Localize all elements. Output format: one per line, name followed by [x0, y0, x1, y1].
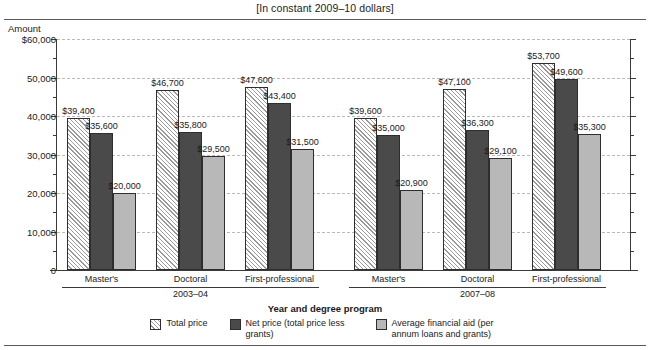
x-axis-category-label: First-professional — [245, 274, 314, 284]
y-axis-minor-tick — [630, 174, 634, 175]
bar-value-label: $35,300 — [573, 122, 606, 132]
y-axis-tick — [630, 78, 636, 79]
legend-swatch-aid-icon — [376, 319, 387, 330]
legend-item-total[interactable]: Total price — [150, 318, 207, 330]
bar-net[interactable] — [377, 135, 400, 270]
bar-value-label: $49,600 — [550, 67, 583, 77]
y-axis-minor-tick — [53, 97, 57, 98]
bottom-divider — [4, 345, 646, 346]
bar-value-label: $47,100 — [438, 77, 471, 87]
y-axis-minor-tick — [53, 174, 57, 175]
bar-value-label: $53,700 — [527, 51, 560, 61]
x-axis-category-label: Master's — [85, 274, 119, 284]
legend-swatch-net-icon — [230, 319, 241, 330]
y-axis-tick-label: 20,000 — [27, 188, 56, 199]
x-axis-category-label: Doctoral — [461, 274, 495, 284]
y-axis-tick — [630, 232, 636, 233]
bar-value-label: $39,600 — [349, 106, 382, 116]
x-axis-line — [50, 270, 638, 271]
bar-value-label: $46,700 — [151, 78, 184, 88]
chart-legend: Total priceNet price (total price less g… — [0, 318, 650, 339]
bar-value-label: $35,800 — [174, 120, 207, 130]
y-axis-minor-tick — [630, 58, 634, 59]
y-axis-minor-tick — [630, 212, 634, 213]
bar-aid[interactable] — [202, 156, 225, 270]
year-group-label: 2003–04 — [173, 289, 208, 299]
bar-aid[interactable] — [489, 158, 512, 270]
bar-value-label: $29,100 — [484, 146, 517, 156]
gridline — [57, 39, 630, 40]
bar-total[interactable] — [532, 63, 555, 270]
bar-value-label: $35,000 — [372, 123, 405, 133]
y-axis-tick — [630, 39, 636, 40]
legend-item-aid[interactable]: Average financial aid (per annum loans a… — [376, 318, 500, 339]
bar-value-label: $47,600 — [240, 75, 273, 85]
bar-net[interactable] — [90, 133, 113, 270]
y-axis-tick — [630, 155, 636, 156]
year-group-rule — [349, 287, 606, 288]
bar-aid[interactable] — [400, 190, 423, 270]
chart-subtitle: [In constant 2009–10 dollars] — [0, 2, 650, 14]
y-axis-minor-tick — [53, 212, 57, 213]
y-axis-tick-label: 50,000 — [27, 72, 56, 83]
bar-value-label: $20,000 — [108, 181, 141, 191]
y-axis-minor-tick — [53, 58, 57, 59]
year-group-rule — [62, 287, 319, 288]
bar-aid[interactable] — [291, 149, 314, 270]
year-group-label: 2007–08 — [460, 289, 495, 299]
y-axis-tick-label: 40,000 — [27, 111, 56, 122]
bar-value-label: $39,400 — [62, 106, 95, 116]
bar-total[interactable] — [67, 118, 90, 270]
y-axis-tick — [630, 116, 636, 117]
y-axis-minor-tick — [630, 135, 634, 136]
bar-value-label: $36,300 — [461, 118, 494, 128]
bar-total[interactable] — [354, 118, 377, 270]
y-axis-tick-label: 30,000 — [27, 149, 56, 160]
x-axis-title: Year and degree program — [0, 303, 650, 314]
y-axis-minor-tick — [630, 251, 634, 252]
bar-total[interactable] — [245, 87, 268, 270]
bar-value-label: $31,500 — [286, 137, 319, 147]
y-axis-tick-label: 0 — [51, 265, 56, 276]
bar-total[interactable] — [443, 89, 466, 270]
x-axis-category-label: First-professional — [532, 274, 601, 284]
y-axis-tick — [630, 193, 636, 194]
bar-net[interactable] — [268, 103, 291, 270]
legend-label: Net price (total price less grants) — [246, 318, 354, 339]
y-axis-tick-label: $60,000 — [22, 34, 56, 45]
y-axis-tick — [630, 270, 636, 271]
bar-value-label: $29,500 — [197, 144, 230, 154]
x-axis-category-label: Doctoral — [174, 274, 208, 284]
bar-value-label: $35,600 — [85, 121, 118, 131]
bar-total[interactable] — [156, 90, 179, 270]
bar-value-label: $43,400 — [263, 91, 296, 101]
legend-label: Average financial aid (per annum loans a… — [392, 318, 500, 339]
y-axis-minor-tick — [53, 251, 57, 252]
bar-aid[interactable] — [113, 193, 136, 270]
legend-label: Total price — [166, 318, 207, 329]
legend-swatch-total-icon — [150, 319, 161, 330]
y-axis-minor-tick — [630, 97, 634, 98]
plot-area: $39,400$35,600$20,000$46,700$35,800$29,5… — [57, 39, 630, 270]
bar-net[interactable] — [555, 79, 578, 270]
top-divider — [4, 19, 646, 20]
legend-item-net[interactable]: Net price (total price less grants) — [230, 318, 354, 339]
x-axis-category-label: Master's — [372, 274, 406, 284]
bar-value-label: $20,900 — [395, 178, 428, 188]
y-axis-title: Amount — [8, 23, 41, 34]
y-axis-minor-tick — [53, 135, 57, 136]
y-axis-tick-label: 10,000 — [27, 226, 56, 237]
bar-aid[interactable] — [578, 134, 601, 270]
